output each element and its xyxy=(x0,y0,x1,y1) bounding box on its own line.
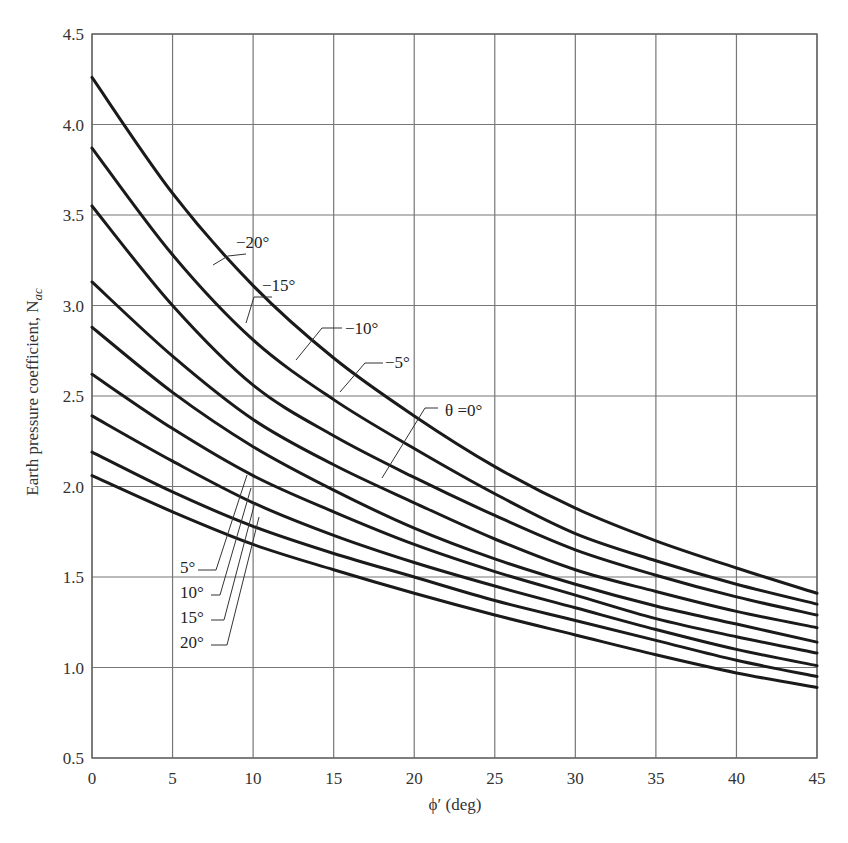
x-tick-label: 30 xyxy=(567,769,584,788)
curve-label: 15° xyxy=(180,608,204,627)
curve-label: 10° xyxy=(180,583,204,602)
curve-label: −15° xyxy=(262,276,295,295)
y-tick-label: 1.0 xyxy=(63,659,84,678)
x-axis-ticks: 051015202530354045 xyxy=(88,769,826,788)
label-leader-line xyxy=(382,408,438,478)
y-tick-label: 4.5 xyxy=(63,25,84,44)
x-axis-title: ϕ′ (deg) xyxy=(429,795,482,814)
y-tick-label: 0.5 xyxy=(63,749,84,768)
y-axis-ticks: 0.51.01.52.02.53.03.54.04.5 xyxy=(63,25,84,768)
x-tick-label: 0 xyxy=(88,769,97,788)
curve-20 xyxy=(92,476,817,688)
y-tick-label: 1.5 xyxy=(63,568,84,587)
curve-label-leaders xyxy=(198,254,438,645)
x-tick-label: 45 xyxy=(809,769,826,788)
y-tick-label: 3.5 xyxy=(63,206,84,225)
curve-label: −5° xyxy=(385,353,410,372)
x-tick-label: 25 xyxy=(486,769,503,788)
curve-neg15 xyxy=(92,148,817,604)
y-axis-title-subscript: ac xyxy=(30,288,45,301)
y-tick-label: 2.0 xyxy=(63,478,84,497)
x-tick-label: 20 xyxy=(406,769,423,788)
x-tick-label: 15 xyxy=(325,769,342,788)
y-axis-title-text: Earth pressure coefficient, N xyxy=(23,301,42,496)
curve-label: 5° xyxy=(180,558,195,577)
curve-label: −10° xyxy=(345,319,378,338)
curve-label: −20° xyxy=(236,233,269,252)
curve-label: 20° xyxy=(180,633,204,652)
curve-10 xyxy=(92,416,817,666)
y-tick-label: 3.0 xyxy=(63,297,84,316)
x-tick-label: 40 xyxy=(728,769,745,788)
y-axis-title: Earth pressure coefficient, Nac xyxy=(23,288,45,496)
y-tick-label: 2.5 xyxy=(63,387,84,406)
y-tick-label: 4.0 xyxy=(63,116,84,135)
chart-canvas: −20°−15°−10°−5°θ =0°5°10°15°20° 05101520… xyxy=(0,0,848,843)
x-tick-label: 10 xyxy=(245,769,262,788)
curve-label: θ =0° xyxy=(445,401,482,420)
x-tick-label: 5 xyxy=(168,769,177,788)
x-tick-label: 35 xyxy=(647,769,664,788)
curve-labels: −20°−15°−10°−5°θ =0°5°10°15°20° xyxy=(180,233,482,652)
